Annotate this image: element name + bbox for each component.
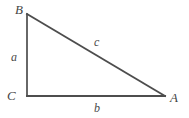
triangle-side-c-line: [27, 14, 165, 96]
vertex-label-c: C: [7, 89, 16, 102]
triangle-figure: B C A a b c: [0, 0, 189, 118]
side-label-a: a: [11, 51, 17, 63]
side-label-b: b: [94, 102, 100, 114]
vertex-label-a: A: [170, 91, 178, 104]
vertex-label-b: B: [15, 3, 23, 16]
side-label-c: c: [94, 36, 99, 48]
